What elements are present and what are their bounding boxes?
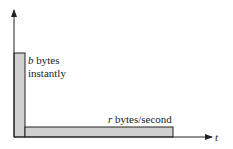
x-axis-label: t [215,131,218,143]
rate-label: r bytes/second [108,113,172,125]
token-bucket-diagram: b bytes instantly r bytes/second t [0,0,233,149]
burst-label-line2: instantly [28,67,66,79]
burst-text: bytes [34,54,60,66]
burst-label: b bytes [28,54,59,66]
burst-bar [14,53,25,137]
rate-text: bytes/second [112,113,172,125]
rate-bar [25,127,173,137]
